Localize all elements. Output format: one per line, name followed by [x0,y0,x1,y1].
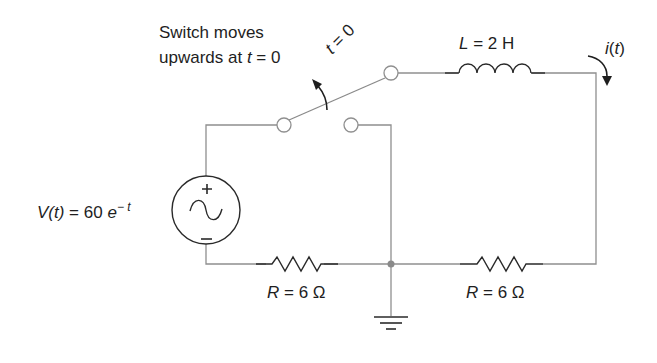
resistor-right-icon [460,257,543,271]
inductor-icon [445,64,545,73]
junction-node [388,261,395,268]
source-label: V(t) = 60 e− t [37,204,131,221]
switch-annotation-line2: upwards at t = 0 [159,49,280,66]
switch-lower-contact [344,118,358,132]
circuit-diagram: Switch moves upwards at t = 0 t = 0 L = … [0,0,657,363]
current-label: i(t) [605,40,625,57]
wire-bottom-left [206,244,266,264]
current-direction-arrow-icon [588,56,612,86]
wire-left [206,125,277,176]
wire-middle [358,125,391,264]
switch-blade [289,78,385,120]
switch-upper-contact [384,66,398,80]
resistor-left-label: R = 6 Ω [267,284,326,301]
resistor-left-icon [256,257,338,271]
switch-annotation-line1: Switch moves [159,24,264,41]
switch-motion-arrow-icon [312,79,327,110]
switch-pivot-contact [277,118,291,132]
inductor-label: L = 2 H [459,35,514,52]
ac-voltage-source-icon [172,176,240,244]
wire-right [532,73,596,264]
circuit-schematic [0,0,657,363]
resistor-right-label: R = 6 Ω [466,284,525,301]
ground-icon [374,317,408,329]
